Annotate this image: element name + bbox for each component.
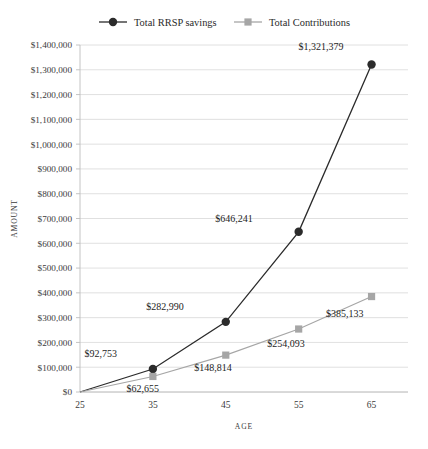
- data-point-marker: [368, 293, 375, 300]
- data-point-label: $62,655: [126, 383, 159, 394]
- y-axis-tick-label: $1,300,000: [31, 65, 73, 75]
- y-axis-tick-label: $0: [63, 387, 73, 397]
- y-axis-title: AMOUNT: [10, 199, 19, 238]
- data-point-marker: [222, 318, 230, 326]
- series-lines: [80, 64, 372, 392]
- data-point-label: $148,814: [194, 362, 232, 373]
- rrsp-savings-chart: $0$100,000$200,000$300,000$400,000$500,0…: [0, 0, 428, 449]
- legend-marker-icon: [244, 18, 251, 25]
- x-axis-title: AGE: [235, 422, 253, 431]
- series-line-1: [80, 64, 372, 392]
- x-axis-labels: 2535455565: [75, 400, 376, 410]
- series-markers: [149, 60, 376, 380]
- y-axis-tick-label: $400,000: [38, 288, 73, 298]
- legend-item-label: Total Contributions: [269, 17, 350, 28]
- y-axis-tick-label: $1,100,000: [31, 115, 73, 125]
- y-axis-tick-label: $1,400,000: [31, 40, 73, 50]
- data-point-marker: [294, 228, 302, 236]
- legend-item-2[interactable]: Total Contributions: [234, 17, 350, 28]
- x-axis-tick-label: 65: [367, 400, 377, 410]
- data-point-marker: [295, 325, 302, 332]
- y-axis-tick-label: $200,000: [38, 338, 73, 348]
- y-axis-tick-label: $1,000,000: [31, 140, 73, 150]
- y-axis-tick-label: $300,000: [38, 313, 73, 323]
- data-point-label: $646,241: [215, 213, 253, 224]
- data-point-marker: [149, 365, 157, 373]
- y-axis-tick-marks: [76, 45, 80, 392]
- data-point-marker: [222, 352, 229, 359]
- data-point-marker: [367, 60, 375, 68]
- y-axis-labels: $0$100,000$200,000$300,000$400,000$500,0…: [31, 40, 73, 397]
- y-axis-tick-label: $600,000: [38, 239, 73, 249]
- y-axis-tick-label: $700,000: [38, 214, 73, 224]
- data-point-label: $254,093: [267, 338, 305, 349]
- chart-canvas: $0$100,000$200,000$300,000$400,000$500,0…: [0, 0, 428, 449]
- x-axis-tick-label: 45: [221, 400, 231, 410]
- data-point-label: $385,133: [326, 308, 364, 319]
- y-axis-tick-label: $100,000: [38, 363, 73, 373]
- data-point-label: $92,753: [84, 348, 117, 359]
- data-point-label: $1,321,379: [299, 41, 344, 52]
- x-axis-tick-label: 35: [148, 400, 158, 410]
- x-axis-tick-label: 25: [75, 400, 85, 410]
- y-axis-tick-label: $900,000: [38, 164, 73, 174]
- data-point-label: $282,990: [146, 301, 184, 312]
- legend: Total RRSP savingsTotal Contributions: [99, 17, 350, 28]
- y-axis-tick-label: $1,200,000: [31, 90, 73, 100]
- y-axis-tick-label: $500,000: [38, 263, 73, 273]
- data-point-marker: [149, 373, 156, 380]
- legend-item-1[interactable]: Total RRSP savings: [99, 17, 217, 28]
- x-axis-tick-label: 55: [294, 400, 304, 410]
- y-axis-tick-label: $800,000: [38, 189, 73, 199]
- legend-item-label: Total RRSP savings: [134, 17, 217, 28]
- legend-marker-icon: [109, 18, 117, 26]
